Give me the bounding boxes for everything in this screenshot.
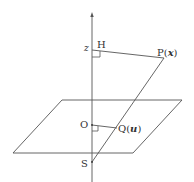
segment-hp <box>92 50 164 58</box>
label-z: z <box>83 43 89 53</box>
label-q-close: ) <box>137 123 141 134</box>
right-angle-marker-h <box>92 51 100 57</box>
label-s: S <box>81 158 88 169</box>
label-q: Q(u) <box>118 123 141 134</box>
diagram-canvas: z H P(x) O Q(u) S <box>0 0 194 182</box>
point-o <box>91 124 93 126</box>
label-p-name: P( <box>157 47 168 58</box>
label-q-name: Q( <box>118 123 130 134</box>
label-h: H <box>97 39 106 50</box>
plane <box>13 100 182 153</box>
segment-oq <box>92 125 117 128</box>
axis-arrow-icon <box>90 12 93 17</box>
point-s <box>91 161 93 163</box>
segment-ps <box>92 58 164 162</box>
label-p: P(x) <box>157 47 178 58</box>
label-p-close: ) <box>174 47 178 58</box>
right-angle-marker-o <box>92 126 98 131</box>
label-q-var: u <box>130 123 137 134</box>
label-o: O <box>80 119 88 130</box>
